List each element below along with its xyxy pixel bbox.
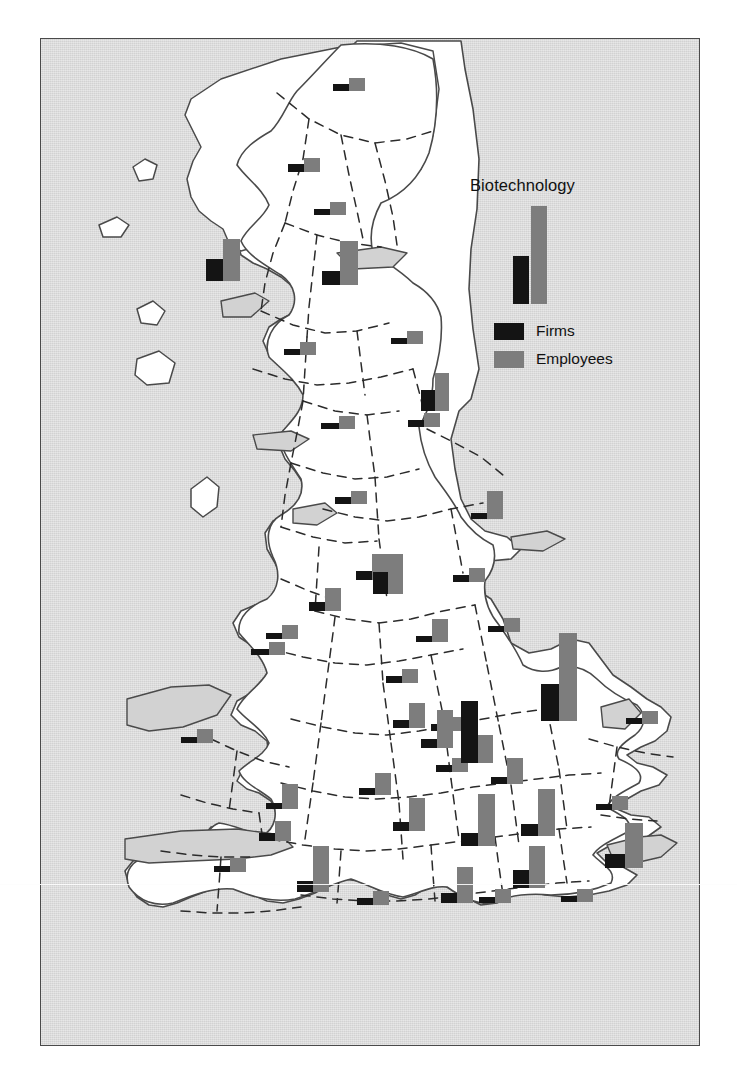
employees-swatch-icon — [494, 351, 524, 368]
employees-bar-greater-london — [529, 846, 545, 888]
firms-bar-hampshire — [479, 897, 495, 903]
firms-bar-nottinghamshire — [488, 626, 504, 632]
employees-bar-clwyd — [402, 669, 418, 683]
employees-bar-wiltshire — [230, 858, 246, 872]
bar-pair-northamptonshire — [491, 758, 523, 784]
bar-pair-fife — [314, 202, 346, 215]
firms-bar-essex — [596, 804, 612, 810]
firms-bar-bedfordshire — [521, 824, 538, 836]
bar-pair-lincolnshire — [541, 633, 577, 721]
firms-swatch-icon — [494, 323, 524, 340]
firms-bar-norfolk — [626, 718, 642, 724]
employees-bar-kent — [625, 823, 643, 868]
firms-bar-gloucestershire — [393, 822, 409, 831]
bar-pair-east-sussex — [561, 889, 593, 902]
employees-bar-south-yorkshire — [469, 568, 485, 582]
employees-bar-bedfordshire — [538, 789, 555, 836]
hebrides-1 — [133, 159, 157, 181]
scan-artifact-line — [0, 884, 737, 885]
firms-bar-cheshire — [309, 602, 325, 611]
firms-bar-northamptonshire — [491, 777, 507, 784]
bar-pair-berkshire — [441, 867, 473, 903]
firms-bar-south-yorkshire — [453, 575, 469, 582]
employees-bar-cambridgeshire — [478, 735, 493, 763]
bar-pair-dorset — [357, 891, 389, 905]
legend-sample-bars — [513, 206, 555, 304]
bar-pair-bedfordshire — [521, 789, 555, 836]
employees-bar-lincolnshire — [559, 633, 577, 721]
employees-bar-berkshire — [457, 867, 473, 903]
map-frame — [40, 38, 700, 1046]
employees-bar-humberside — [487, 491, 503, 519]
bar-pair-west-midlands — [421, 710, 453, 748]
bar-pair-south-yorkshire — [453, 568, 485, 582]
bar-pair-greater-london — [513, 846, 545, 888]
hebrides-3 — [137, 301, 165, 325]
firms-bar-wiltshire — [214, 866, 230, 872]
employees-bar-west-midlands — [437, 710, 453, 748]
firms-bar-humberside — [471, 513, 487, 519]
bar-pair-north-yorkshire — [408, 413, 440, 427]
employees-bar-borders — [300, 342, 316, 355]
bar-pair-cheshire — [309, 588, 341, 611]
employees-bar-dyfed — [197, 729, 213, 743]
firms-bar-strathclyde — [206, 259, 223, 281]
bar-pair-derbyshire — [416, 619, 448, 642]
isle-of-man — [191, 477, 219, 517]
employees-bar-hereford-worcester — [375, 773, 391, 795]
legend-item-firms: Firms — [494, 322, 575, 340]
firms-bar-derbyshire — [416, 636, 432, 642]
firms-label: Firms — [536, 322, 575, 340]
hebrides-2 — [99, 217, 129, 237]
firms-bar-berkshire — [441, 893, 457, 903]
employees-bar-gwynedd — [269, 642, 285, 655]
legend-item-employees: Employees — [494, 350, 613, 368]
bar-pair-hampshire — [479, 889, 511, 903]
firms-bar-grampian — [333, 84, 349, 91]
bar-pair-northumberland — [391, 331, 423, 344]
islay-arran — [135, 351, 175, 385]
employees-bar-cheshire — [325, 588, 341, 611]
bar-pair-grampian — [333, 78, 365, 91]
bar-pair-hereford-worcester — [359, 773, 391, 795]
firms-bar-lothian — [322, 271, 340, 285]
humber — [511, 531, 565, 551]
bar-pair-humberside — [471, 491, 503, 519]
bar-pair-cambridgeshire — [461, 701, 493, 763]
employees-label: Employees — [536, 350, 613, 368]
firms-bar-clwyd — [386, 676, 402, 683]
firms-bar-warwickshire — [436, 765, 452, 772]
bar-pair-essex — [596, 796, 628, 810]
firms-bar-borders — [284, 349, 300, 355]
firms-bar-kent — [605, 854, 625, 868]
bar-pair-tyne-and-wear — [421, 373, 449, 411]
employees-bar-strathclyde — [223, 239, 240, 281]
employees-bar-gwent — [282, 784, 298, 809]
firms-bar-dorset — [357, 898, 373, 905]
employees-bar-grampian — [349, 78, 365, 91]
bar-pair-greater-manchester — [373, 554, 403, 594]
bar-pair-gwynedd — [251, 642, 285, 655]
bar-pair-tayside — [288, 158, 320, 172]
firms-bar-tyne-and-wear — [421, 390, 435, 411]
employees-bar-gloucestershire — [409, 798, 425, 831]
bar-pair-lothian — [322, 241, 358, 285]
bar-pair-oxfordshire — [461, 794, 495, 846]
legend-sample-firms-bar — [513, 256, 529, 304]
employees-bar-north-yorkshire — [424, 413, 440, 427]
employees-bar-south-glamorgan — [275, 821, 291, 841]
firms-bar-gwynedd — [251, 649, 269, 655]
bar-pair-gwent — [266, 784, 298, 809]
bar-pair-merseyside — [266, 625, 298, 639]
figure-root: Biotechnology Firms Employees — [0, 0, 737, 1076]
firms-bar-lancashire — [335, 497, 351, 504]
employees-bar-northumberland — [407, 331, 423, 344]
bar-pair-nottinghamshire — [488, 618, 520, 632]
firms-bar-greater-london — [513, 870, 529, 888]
legend-sample-employees-bar — [531, 206, 547, 304]
employees-bar-cumbria — [339, 416, 355, 429]
firms-bar-dyfed — [181, 737, 197, 743]
firms-bar-gwent — [266, 803, 282, 809]
employees-bar-essex — [612, 796, 628, 810]
employees-bar-norfolk — [642, 711, 658, 724]
